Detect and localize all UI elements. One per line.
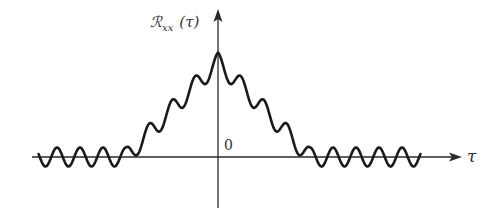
y-axis-argument: (τ) <box>179 13 199 31</box>
origin-label: 0 <box>224 137 233 153</box>
x-axis-label: τ <box>467 146 477 166</box>
autocorrelation-figure: ℛxx(τ) τ 0 <box>0 0 494 223</box>
y-axis-subscript: xx <box>162 22 174 33</box>
y-axis-label: ℛxx(τ) <box>150 13 199 33</box>
